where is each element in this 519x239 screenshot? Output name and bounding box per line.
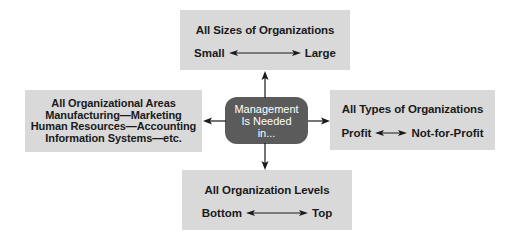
box-title: All Organization Levels	[182, 184, 352, 196]
range-end-label: Large	[305, 47, 336, 59]
range-start-label: Profit	[341, 127, 371, 139]
range-start-label: Bottom	[202, 207, 242, 219]
center-node-management-is-needed-in: Management Is Needed in...	[225, 97, 308, 144]
center-line: in...	[258, 127, 276, 139]
box-title: All Types of Organizations	[330, 103, 495, 115]
range-end-label: Top	[312, 207, 332, 219]
box-line: Information Systems—etc.	[25, 133, 202, 145]
type-range: Profit Not-for-Profit	[330, 127, 495, 139]
level-range: Bottom Top	[182, 207, 352, 219]
box-title: All Organizational Areas	[25, 98, 202, 110]
range-start-label: Small	[194, 47, 225, 59]
box-line: Human Resources—Accounting	[25, 121, 202, 133]
arrow-left-icon	[203, 116, 226, 126]
box-all-organization-levels: All Organization Levels Bottom Top	[182, 170, 352, 230]
arrow-down-icon	[260, 143, 270, 170]
box-title: All Sizes of Organizations	[180, 24, 350, 36]
double-arrow-icon	[229, 49, 301, 57]
double-arrow-icon	[246, 209, 308, 217]
center-line: Is Needed	[241, 115, 291, 127]
box-all-sizes-of-organizations: All Sizes of Organizations Small Large	[180, 10, 350, 70]
double-arrow-icon	[375, 129, 407, 137]
size-range: Small Large	[180, 47, 350, 59]
arrow-right-icon	[308, 116, 330, 126]
arrow-up-icon	[260, 71, 270, 98]
box-all-organizational-areas: All Organizational Areas Manufacturing—M…	[25, 90, 202, 152]
range-end-label: Not-for-Profit	[411, 127, 483, 139]
box-all-types-of-organizations: All Types of Organizations Profit Not-fo…	[330, 90, 495, 150]
center-line: Management	[234, 103, 298, 115]
